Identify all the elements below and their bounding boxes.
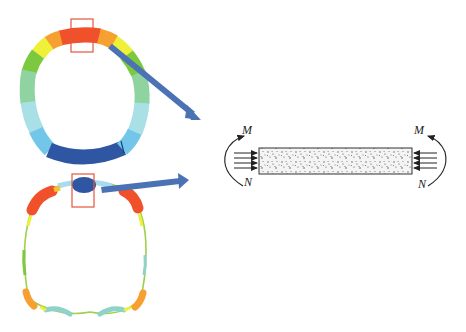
beam-element: M N M N — [225, 123, 446, 191]
moment-arc-right — [428, 136, 446, 186]
top-lining-contour — [27, 35, 142, 157]
moment-arc-left — [225, 136, 244, 186]
axial-force-arrows-left — [234, 153, 257, 168]
pointer-arrow-top — [110, 46, 201, 120]
moment-label-right: M — [413, 123, 425, 137]
diagram-canvas: M N M N — [0, 0, 466, 332]
axial-label-left: N — [243, 175, 253, 189]
axial-force-arrows-right — [414, 153, 437, 168]
axial-label-right: N — [417, 177, 427, 191]
moment-label-left: M — [241, 123, 253, 137]
concrete-beam — [259, 148, 412, 174]
bottom-lining-contour — [24, 177, 146, 314]
pointer-arrow-bottom — [101, 173, 189, 193]
